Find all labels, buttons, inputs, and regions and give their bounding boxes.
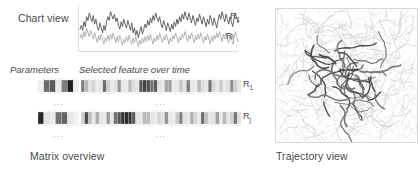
feature-matrix-ellipsis-2: ... (81, 126, 241, 142)
matrix-row-tag-rj: Rj (243, 111, 251, 123)
series-line-r1 (80, 12, 238, 38)
parameters-matrix-ellipsis-1: ... (38, 94, 79, 110)
series-tag-sub: 1 (237, 16, 241, 23)
row-tag-sub: j (250, 116, 251, 123)
matrix-overview-caption: Matrix overview (30, 150, 104, 162)
parameters-matrix[interactable]: ... ... (38, 78, 79, 142)
series-tag-sub: j (233, 36, 234, 43)
selected-feature-label: Selected feature over time (79, 64, 190, 75)
row-tag-sub: 1 (250, 84, 254, 91)
feature-matrix-ellipsis-1: ... (81, 94, 241, 110)
chart-view-plot (79, 5, 239, 52)
trajectory-view-render (276, 9, 417, 142)
chart-series-tag-rj: Rj (226, 31, 234, 43)
chart-series-tag-r1: R1 (230, 11, 240, 23)
trajectory-view-panel[interactable] (275, 8, 418, 143)
trajectory-view-caption: Trajectory view (276, 150, 348, 162)
chart-view-label: Chart view (18, 12, 69, 24)
series-line-rj (80, 28, 238, 47)
parameters-matrix-ellipsis-2: ... (38, 126, 79, 142)
chart-view-panel[interactable] (78, 5, 238, 52)
parameters-label: Parameters (10, 64, 59, 75)
selected-feature-matrix[interactable]: ... ... (81, 78, 241, 142)
matrix-row-tag-r1: R1 (243, 79, 253, 91)
